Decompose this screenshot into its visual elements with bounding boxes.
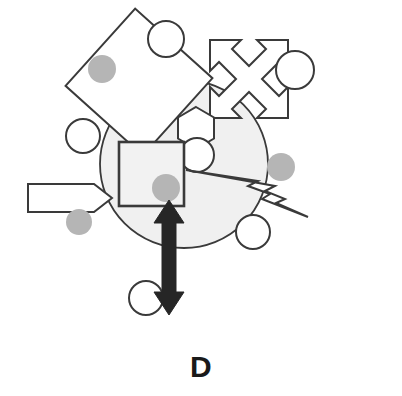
open-circle-right-lower bbox=[236, 215, 270, 249]
open-circle-left bbox=[66, 119, 100, 153]
open-circle-top bbox=[148, 21, 184, 57]
open-circle-top-right bbox=[276, 51, 314, 89]
gray-dot-lower-left bbox=[66, 209, 92, 235]
gray-dot-center bbox=[152, 174, 180, 202]
gray-dot-right bbox=[267, 153, 295, 181]
vertical-double-headed-arrow bbox=[154, 200, 184, 315]
figure-root: D bbox=[0, 0, 402, 396]
diagram-canvas bbox=[0, 0, 402, 396]
four-way-diagonal-arrow bbox=[210, 40, 288, 118]
gray-dot-upper-left bbox=[88, 55, 116, 83]
left-horizontal-arrow bbox=[28, 184, 112, 212]
panel-label: D bbox=[0, 352, 402, 382]
